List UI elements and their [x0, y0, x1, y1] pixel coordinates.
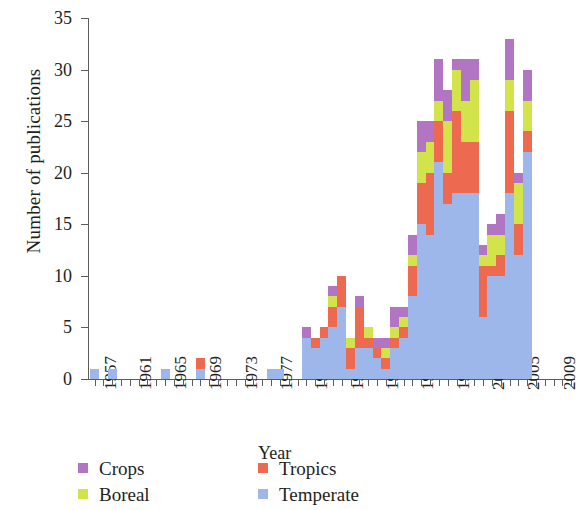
bar-1982	[311, 338, 320, 379]
bar-1983	[320, 327, 329, 379]
bar-2002	[487, 224, 496, 379]
bar-1959	[108, 369, 117, 379]
bar-1984	[328, 286, 337, 379]
bar-segment-temperate	[390, 348, 399, 379]
bar-segment-temperate	[381, 369, 390, 379]
bar-segment-boreal	[523, 101, 532, 132]
bar-segment-temperate	[417, 224, 426, 379]
bar-1997	[443, 90, 452, 379]
bar-segment-temperate	[470, 193, 479, 379]
bar-2006	[523, 70, 532, 379]
bar-segment-tropics	[373, 348, 382, 358]
bar-1986	[346, 338, 355, 379]
bar-segment-boreal	[381, 348, 390, 358]
bar-1985	[337, 276, 346, 379]
bar-segment-temperate	[505, 193, 514, 379]
bar-segment-temperate	[328, 327, 337, 379]
bar-segment-tropics	[337, 276, 346, 307]
bar-segment-boreal	[399, 317, 408, 327]
bar-segment-boreal	[434, 101, 443, 122]
bar-segment-crops	[408, 235, 417, 256]
bar-1994	[417, 121, 426, 379]
bar-segment-boreal	[452, 70, 461, 111]
bar-segment-boreal	[461, 101, 470, 142]
bar-segment-temperate	[355, 348, 364, 379]
bar-segment-crops	[355, 296, 364, 306]
bar-segment-temperate	[487, 276, 496, 379]
bar-segment-temperate	[434, 162, 443, 379]
bar-segment-tropics	[434, 121, 443, 162]
bar-segment-boreal	[443, 121, 452, 173]
chart-legend: CropsTropicsBorealTemperate	[78, 455, 478, 507]
bar-segment-temperate	[461, 193, 470, 379]
bar-1991	[390, 307, 399, 379]
bar-2004	[505, 39, 514, 379]
bar-1989	[373, 338, 382, 379]
legend-item-tropics[interactable]: Tropics	[258, 459, 438, 478]
bar-segment-crops	[302, 327, 311, 337]
bar-segment-tropics	[505, 111, 514, 194]
bar-1995	[426, 121, 435, 379]
bar-1977	[267, 369, 276, 379]
bar-1987	[355, 296, 364, 379]
bar-segment-temperate	[267, 369, 276, 379]
bar-segment-tropics	[390, 338, 399, 348]
legend-item-temperate[interactable]: Temperate	[258, 485, 438, 504]
legend-label: Boreal	[99, 485, 150, 504]
bar-segment-tropics	[196, 358, 205, 368]
bar-segment-boreal	[487, 235, 496, 266]
bar-segment-crops	[417, 121, 426, 152]
bar-1996	[434, 59, 443, 379]
bar-segment-boreal	[364, 327, 373, 337]
legend-label: Crops	[99, 459, 144, 478]
bar-segment-crops	[390, 307, 399, 328]
bar-segment-crops	[373, 338, 382, 348]
bar-segment-boreal	[417, 152, 426, 183]
bar-segment-temperate	[90, 369, 99, 379]
bar-segment-crops	[452, 59, 461, 69]
bar-1957	[90, 369, 99, 379]
bar-segment-tropics	[328, 307, 337, 328]
bar-segment-boreal	[470, 80, 479, 142]
bar-segment-temperate	[311, 348, 320, 379]
legend-item-boreal[interactable]: Boreal	[78, 485, 258, 504]
bar-segment-temperate	[496, 276, 505, 379]
bar-segment-temperate	[408, 296, 417, 379]
legend-item-crops[interactable]: Crops	[78, 459, 258, 478]
bar-segment-tropics	[364, 338, 373, 348]
bar-2001	[479, 245, 488, 379]
bar-segment-boreal	[390, 327, 399, 337]
temperate-swatch	[258, 489, 268, 499]
bar-segment-temperate	[196, 369, 205, 379]
crops-swatch	[78, 463, 88, 473]
bar-segment-tropics	[461, 142, 470, 194]
bar-1998	[452, 59, 461, 379]
bar-segment-crops	[443, 90, 452, 121]
bar-segment-tropics	[470, 142, 479, 194]
bar-segment-tropics	[346, 348, 355, 369]
bar-segment-boreal	[514, 183, 523, 224]
bar-1992	[399, 307, 408, 379]
bar-2005	[514, 173, 523, 379]
bar-segment-crops	[479, 245, 488, 255]
bar-1993	[408, 235, 417, 379]
bar-segment-temperate	[337, 307, 346, 379]
bar-segment-tropics	[311, 338, 320, 348]
bar-2003	[496, 214, 505, 379]
bar-1999	[461, 59, 470, 379]
bar-segment-boreal	[328, 296, 337, 306]
bar-segment-crops	[514, 173, 523, 183]
bar-segment-temperate	[399, 338, 408, 379]
bar-segment-crops	[426, 121, 435, 142]
bar-segment-crops	[505, 39, 514, 80]
tropics-swatch	[258, 463, 268, 473]
bar-segment-tropics	[479, 266, 488, 318]
bar-segment-tropics	[426, 173, 435, 235]
bar-segment-temperate	[161, 369, 170, 379]
bar-segment-temperate	[302, 338, 311, 379]
bar-segment-temperate	[346, 369, 355, 379]
bar-segment-crops	[496, 214, 505, 235]
bar-segment-tropics	[381, 358, 390, 368]
bar-segment-temperate	[523, 152, 532, 379]
bar-segment-crops	[461, 59, 470, 100]
